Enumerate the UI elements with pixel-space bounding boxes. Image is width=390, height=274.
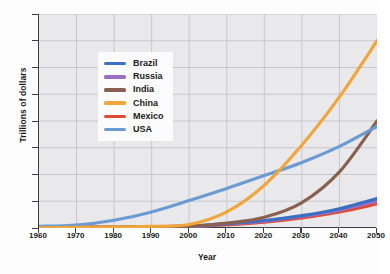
x-axis-title: Year (38, 252, 376, 262)
legend-label: Russia (133, 72, 163, 81)
legend-swatch-icon (104, 75, 126, 79)
x-tick-mark (376, 228, 377, 233)
legend-swatch-icon (104, 62, 126, 66)
legend-item-india: India (104, 83, 164, 96)
x-tick-mark (150, 228, 151, 233)
x-tick-mark (300, 228, 301, 233)
x-tick-label: 2050 (353, 231, 390, 240)
legend-label: China (133, 99, 158, 108)
legend-swatch-icon (104, 101, 126, 105)
x-tick-mark (75, 228, 76, 233)
plot-area (38, 14, 376, 228)
legend-swatch-icon (104, 88, 126, 92)
legend-item-brazil: Brazil (104, 57, 164, 70)
legend-swatch-icon (104, 128, 126, 132)
legend-label: Brazil (133, 59, 158, 68)
legend-item-china: China (104, 97, 164, 110)
legend-label: India (133, 85, 154, 94)
legend-item-russia: Russia (104, 70, 164, 83)
series-line-china (39, 41, 377, 228)
x-tick-mark (263, 228, 264, 233)
legend-swatch-icon (104, 115, 126, 119)
y-axis-title: Trillions of dollars (18, 35, 28, 175)
legend-item-usa: USA (104, 123, 164, 136)
chart-legend: BrazilRussiaIndiaChinaMexicoUSA (98, 52, 173, 141)
x-tick-mark (188, 228, 189, 233)
x-tick-mark (113, 228, 114, 233)
x-tick-mark (338, 228, 339, 233)
legend-item-mexico: Mexico (104, 110, 164, 123)
legend-label: Mexico (133, 112, 164, 121)
series-canvas (39, 14, 377, 228)
x-tick-mark (225, 228, 226, 233)
x-tick-mark (38, 228, 39, 233)
legend-label: USA (133, 125, 152, 134)
